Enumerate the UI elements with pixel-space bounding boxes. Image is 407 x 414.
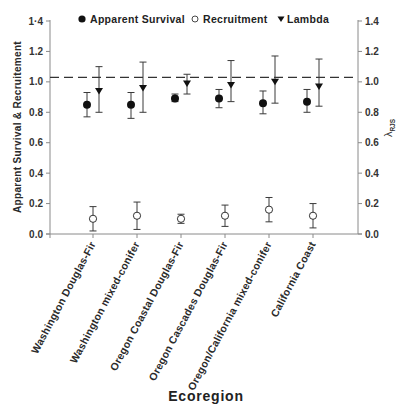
recruitment-point-marker-icon	[221, 212, 228, 219]
right-y-tick-label: 0.8	[365, 107, 379, 118]
chart: 0.00.20.40.60.81.01.21·40.00.20.40.60.81…	[0, 0, 407, 414]
recruitment-point-marker-icon	[177, 215, 184, 222]
right-y-tick-label: 1.4	[365, 16, 379, 27]
right-y-tick-label: 0.0	[365, 229, 379, 240]
legend-survival-marker-icon	[78, 15, 85, 22]
lambda-point-marker-icon	[315, 83, 323, 90]
x-axis-title: Ecoregion	[168, 388, 244, 404]
recruitment-point-marker-icon	[89, 215, 96, 222]
lambda-point-marker-icon	[271, 79, 279, 86]
left-y-tick-label: 1·4	[29, 16, 44, 27]
right-axis-title-subscript: RJS	[389, 118, 396, 131]
right-y-tick-label: 0.4	[365, 168, 379, 179]
left-y-tick-label: 1.0	[29, 76, 43, 87]
axes: 0.00.20.40.60.81.01.21·40.00.20.40.60.81…	[29, 16, 380, 240]
survival-point-marker-icon	[215, 95, 223, 103]
category-label: Oregon/California mixed-conifer	[185, 239, 274, 392]
survival-point-marker-icon	[127, 101, 135, 109]
category-label: Oregon Coastal Douglas-Fir	[107, 239, 186, 372]
category-label: Oregon Cascades Douglas-Fir	[146, 239, 230, 382]
lambda-point-marker-icon	[227, 82, 235, 89]
left-y-tick-label: 0.6	[29, 137, 43, 148]
series-apparent-survival	[83, 89, 311, 118]
legend-lambda-marker-icon	[278, 17, 285, 23]
right-axis-title: λRJS	[382, 118, 396, 137]
right-y-tick-label: 1.2	[365, 46, 379, 57]
right-y-tick-label: 1.0	[365, 76, 379, 87]
left-y-tick-label: 1.2	[29, 46, 43, 57]
series-recruitment	[89, 197, 316, 230]
right-y-tick-label: 0.2	[365, 198, 379, 209]
legend-lambda-label: Lambda	[287, 13, 329, 25]
right-y-tick-label: 0.6	[365, 137, 379, 148]
survival-point-marker-icon	[83, 101, 91, 109]
left-y-tick-label: 0.2	[29, 198, 43, 209]
category-label: California Coast	[268, 239, 318, 319]
recruitment-point-marker-icon	[265, 206, 272, 213]
left-axis-title: Apparent Survival & Recruitement	[12, 41, 23, 213]
left-y-tick-label: 0.8	[29, 107, 43, 118]
lambda-point-marker-icon	[183, 80, 191, 87]
lambda-point-marker-icon	[95, 88, 103, 95]
survival-point-marker-icon	[303, 98, 311, 106]
survival-point-marker-icon	[259, 99, 267, 107]
lambda-point-marker-icon	[139, 85, 147, 92]
recruitment-point-marker-icon	[133, 212, 140, 219]
left-y-tick-label: 0.0	[29, 229, 43, 240]
category-labels: Washington Douglas-FirWashington mixed-c…	[28, 239, 318, 392]
left-y-tick-label: 0.4	[29, 168, 43, 179]
legend-recruitment-marker-icon	[192, 16, 198, 22]
legend-recruitment-label: Recruitment	[203, 13, 268, 25]
recruitment-point-marker-icon	[309, 212, 316, 219]
data-series	[83, 56, 323, 231]
legend-survival-label: Apparent Survival	[90, 13, 185, 25]
survival-point-marker-icon	[171, 95, 179, 103]
legend: Apparent Survival Recruitment Lambda	[78, 13, 329, 25]
svg-text:λRJS: λRJS	[382, 118, 396, 137]
